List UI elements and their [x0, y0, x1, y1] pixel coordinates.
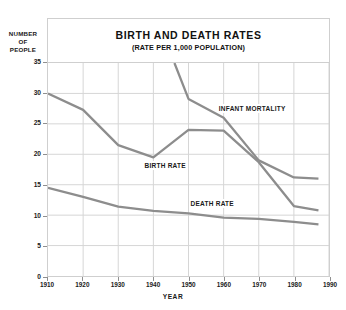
x-tick-label: 1980 [281, 281, 309, 288]
y-tick-label: 10 [17, 212, 41, 219]
y-axis-title: NUMBER OF PEOPLE [2, 30, 44, 55]
plot-canvas [48, 63, 329, 276]
y-tick-mark [43, 216, 47, 217]
x-tick-label: 1970 [245, 281, 273, 288]
x-tick-mark [224, 277, 225, 281]
y-tick-label: 25 [17, 119, 41, 126]
x-tick-mark [82, 277, 83, 281]
x-tick-label: 1990 [316, 281, 344, 288]
chart-title: BIRTH AND DEATH RATES [116, 29, 262, 41]
x-tick-label: 1930 [104, 281, 132, 288]
y-axis-title-line-1: NUMBER [2, 30, 44, 38]
y-axis-title-line-3: PEOPLE [2, 46, 44, 54]
y-tick-mark [43, 185, 47, 186]
title-block: BIRTH AND DEATH RATES (RATE PER 1,000 PO… [47, 18, 330, 62]
x-tick-mark [259, 277, 260, 281]
birth-death-rates-chart: NUMBER OF PEOPLE BIRTH AND DEATH RATES (… [0, 0, 346, 310]
y-axis-title-line-2: OF [2, 38, 44, 46]
x-tick-label: 1960 [210, 281, 238, 288]
x-axis-title: YEAR [0, 293, 346, 300]
y-tick-mark [43, 154, 47, 155]
y-tick-label: 5 [17, 242, 41, 249]
y-tick-label: 35 [17, 58, 41, 65]
series-label-death-rate: DEATH RATE [189, 199, 236, 208]
x-tick-mark [189, 277, 190, 281]
series-label-infant-mortality: INFANT MORTALITY [217, 104, 288, 113]
series-line-infant-mortality [174, 63, 318, 179]
y-tick-mark [43, 93, 47, 94]
x-tick-mark [153, 277, 154, 281]
x-tick-mark [330, 277, 331, 281]
y-tick-mark [43, 62, 47, 63]
series-line-death-rate [48, 188, 318, 225]
chart-subtitle: (RATE PER 1,000 POPULATION) [132, 43, 245, 52]
series-lines [48, 63, 318, 224]
x-tick-label: 1940 [139, 281, 167, 288]
y-tick-label: 0 [17, 273, 41, 280]
y-tick-label: 20 [17, 150, 41, 157]
x-tick-mark [295, 277, 296, 281]
y-tick-label: 30 [17, 89, 41, 96]
x-tick-label: 1910 [33, 281, 61, 288]
plot-area [47, 62, 330, 277]
y-tick-mark [43, 123, 47, 124]
x-tick-mark [118, 277, 119, 281]
y-tick-mark [43, 246, 47, 247]
x-tick-label: 1920 [68, 281, 96, 288]
series-label-birth-rate: BIRTH RATE [143, 161, 188, 170]
gridlines [48, 63, 329, 276]
x-tick-label: 1950 [175, 281, 203, 288]
x-tick-mark [47, 277, 48, 281]
y-tick-label: 15 [17, 181, 41, 188]
